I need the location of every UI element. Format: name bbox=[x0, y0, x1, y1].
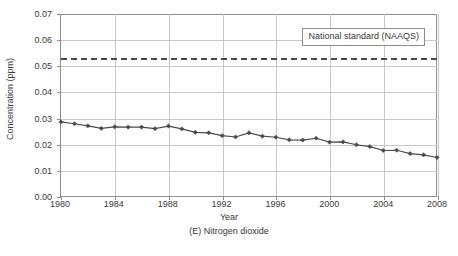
data-point-marker bbox=[180, 127, 184, 131]
y-tick-label: 0.05 bbox=[34, 62, 52, 71]
data-point-marker bbox=[421, 153, 425, 157]
y-tick-label: 0.02 bbox=[34, 140, 52, 149]
data-point-marker bbox=[220, 134, 224, 138]
y-tick-label: 0.04 bbox=[34, 88, 52, 97]
data-point-marker bbox=[287, 138, 291, 142]
data-point-marker bbox=[86, 124, 90, 128]
data-point-marker bbox=[247, 131, 251, 135]
data-point-marker bbox=[368, 145, 372, 149]
x-tick-label: 1992 bbox=[212, 199, 232, 209]
x-axis-tick-labels: 19801984198819921996200020042008 bbox=[60, 199, 437, 213]
data-point-marker bbox=[193, 130, 197, 134]
data-point-marker bbox=[327, 140, 331, 144]
x-axis-title-text: Year bbox=[220, 212, 238, 222]
y-axis-tick-labels: 0.000.010.020.030.040.050.060.07 bbox=[18, 14, 56, 197]
data-point-marker bbox=[139, 125, 143, 129]
chart-figure: Concentration (ppm) 0.000.010.020.030.04… bbox=[0, 0, 458, 256]
y-tick-label: 0.03 bbox=[34, 114, 52, 123]
x-tick-label: 2000 bbox=[319, 199, 339, 209]
data-point-marker bbox=[72, 122, 76, 126]
plot-area: National standard (NAAQS) bbox=[60, 14, 437, 197]
data-point-marker bbox=[341, 140, 345, 144]
x-tick-label: 1980 bbox=[50, 199, 70, 209]
y-tick-label: 0.07 bbox=[34, 10, 52, 19]
data-point-marker bbox=[408, 152, 412, 156]
data-point-marker bbox=[301, 138, 305, 142]
y-axis-title: Concentration (ppm) bbox=[2, 0, 18, 198]
data-point-marker bbox=[166, 124, 170, 128]
data-point-marker bbox=[207, 131, 211, 135]
data-point-marker bbox=[99, 126, 103, 130]
y-tick-label: 0.06 bbox=[34, 36, 52, 45]
data-point-marker bbox=[354, 143, 358, 147]
x-tick-label: 2004 bbox=[373, 199, 393, 209]
data-point-marker bbox=[381, 148, 385, 152]
data-point-marker bbox=[274, 135, 278, 139]
legend-naaqs-text: National standard (NAAQS) bbox=[308, 31, 419, 41]
data-point-marker bbox=[314, 136, 318, 140]
naaqs-reference-line bbox=[61, 58, 437, 60]
x-tick-label: 1988 bbox=[158, 199, 178, 209]
data-point-marker bbox=[233, 135, 237, 139]
y-tick-label: 0.01 bbox=[34, 166, 52, 175]
data-point-marker bbox=[126, 125, 130, 129]
y-axis-title-text: Concentration (ppm) bbox=[5, 58, 15, 140]
x-tick-label: 1984 bbox=[104, 199, 124, 209]
x-axis-title: Year bbox=[0, 212, 458, 222]
figure-caption-text: (E) Nitrogen dioxide bbox=[189, 226, 269, 236]
series-line bbox=[61, 122, 437, 158]
data-point-marker bbox=[153, 127, 157, 131]
data-point-marker bbox=[113, 125, 117, 129]
legend-naaqs-label: National standard (NAAQS) bbox=[302, 28, 425, 46]
figure-caption: (E) Nitrogen dioxide bbox=[0, 226, 458, 236]
x-tick-label: 1996 bbox=[265, 199, 285, 209]
data-point-marker bbox=[395, 148, 399, 152]
data-point-marker bbox=[260, 134, 264, 138]
data-point-marker bbox=[59, 120, 63, 124]
vertical-gridline bbox=[438, 14, 439, 196]
x-tick-label: 2008 bbox=[427, 199, 447, 209]
